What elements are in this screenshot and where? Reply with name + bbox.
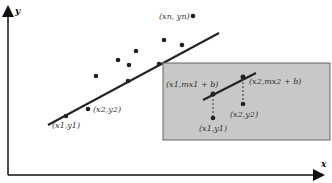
data-point [64, 114, 69, 119]
label-predicted-1: (x1,mx1 + b) [166, 80, 218, 89]
predicted-point-2 [241, 75, 246, 80]
predicted-point-1 [211, 92, 216, 97]
data-point [86, 107, 91, 112]
label-second-point: (x2,y2) [93, 105, 121, 114]
inset-panel: (x1,mx1 + b) (x2,mx2 + b) (x2,y2) (x1,y1… [163, 63, 330, 140]
data-point [134, 49, 139, 54]
data-point [191, 14, 196, 19]
data-point [157, 62, 162, 67]
observed-point-1 [211, 116, 216, 121]
y-axis-label: y [14, 6, 21, 16]
label-observed-2: (x2,y2) [230, 110, 258, 119]
data-point [162, 38, 167, 43]
label-predicted-2: (x2,mx2 + b) [249, 77, 301, 86]
inset-background [163, 63, 330, 140]
label-last-point: (xn, yn) [159, 12, 190, 21]
label-observed-1: (x1,y1) [199, 124, 227, 133]
data-point [127, 63, 132, 68]
label-first-point: (x1,y1) [52, 121, 80, 130]
data-point [180, 43, 185, 48]
x-axis-label: x [320, 159, 327, 169]
data-point [126, 79, 131, 84]
data-point [116, 58, 121, 63]
data-point [94, 74, 99, 79]
regression-diagram: y x (x1,y1) (x2,y2) (xn, yn) (x1,mx1 + b… [0, 0, 332, 183]
observed-point-2 [241, 102, 246, 107]
